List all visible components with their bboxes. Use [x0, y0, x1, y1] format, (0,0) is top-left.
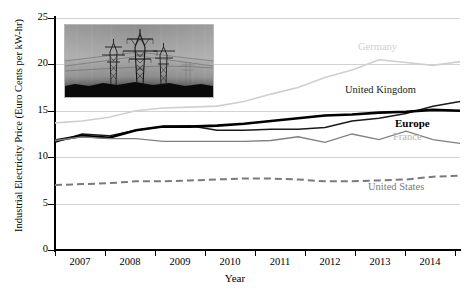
- power-transmission-lines-photo: [64, 24, 214, 98]
- line-chart: Industrial Electricity Price (Euro Cents…: [0, 0, 470, 295]
- photo-svg: [65, 25, 213, 97]
- series-label-france: France: [393, 131, 422, 142]
- series-label-europe: Europe: [395, 117, 430, 129]
- series-label-germany: Germany: [358, 41, 397, 52]
- series-label-united-states: United States: [368, 181, 424, 192]
- series-label-united-kingdom: United Kingdom: [345, 84, 416, 95]
